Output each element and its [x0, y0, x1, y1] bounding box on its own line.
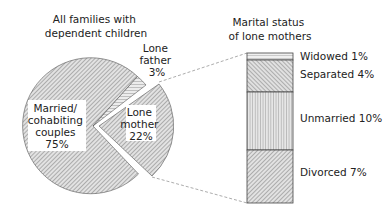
bar-label-separated: Separated 4%	[300, 68, 374, 80]
connector-bottom	[152, 177, 247, 203]
bar-label-divorced: Divorced 7%	[300, 166, 367, 178]
bar-label-widowed: Widowed 1%	[300, 50, 368, 62]
family-composition-chart: All families with dependent children Mar…	[0, 0, 389, 214]
father-label: Lone father 3%	[139, 42, 174, 78]
pie-title: All families with dependent children	[45, 13, 147, 39]
bar-label-unmarried: Unmarried 10%	[300, 112, 382, 124]
bar-segment-unmarried	[247, 92, 293, 150]
bar-segment-separated	[247, 60, 293, 92]
bar-segment-widowed	[247, 53, 293, 60]
stacked-bar	[247, 53, 293, 203]
bar-title: Marital status of lone mothers	[229, 16, 312, 42]
bar-segment-divorced	[247, 150, 293, 203]
